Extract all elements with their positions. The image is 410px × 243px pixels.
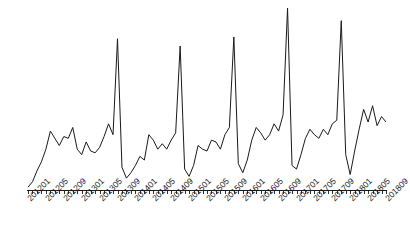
data-series-line — [28, 8, 386, 187]
